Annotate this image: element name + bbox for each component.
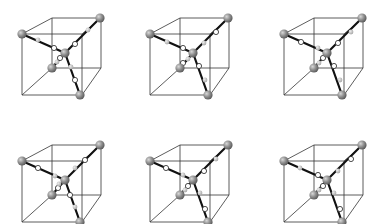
gray-site-atom [214, 157, 219, 162]
corner-atom [47, 63, 56, 72]
corner-atom [279, 156, 288, 165]
cube-edge [284, 195, 314, 222]
corner-atom [309, 63, 318, 72]
corner-atom [223, 13, 232, 22]
center-atom [188, 175, 197, 184]
corner-atom [145, 29, 154, 38]
bond [327, 180, 342, 222]
corner-atom [337, 217, 346, 224]
cube-r1-c3 [279, 13, 366, 99]
gray-site-atom [73, 166, 78, 171]
gray-site-atom [317, 188, 322, 193]
gray-site-atom [349, 30, 354, 35]
white-site-atom [82, 157, 87, 162]
bond [193, 53, 208, 95]
bond [22, 161, 65, 180]
cube-edge [82, 195, 101, 222]
corner-atom [309, 190, 318, 199]
corner-atom [279, 29, 288, 38]
center-atom [60, 175, 69, 184]
gray-site-atom [316, 46, 321, 51]
cube-r2-c1 [17, 140, 104, 224]
gray-site-atom [73, 205, 78, 210]
cube-edge [22, 145, 52, 161]
cube-edge [150, 68, 180, 95]
corner-atom [337, 90, 346, 99]
white-site-atom [315, 172, 320, 177]
white-site-atom [331, 63, 336, 68]
white-site-atom [337, 206, 342, 211]
white-site-atom [298, 39, 303, 44]
corner-atom [175, 190, 184, 199]
cube-edge [344, 195, 363, 222]
white-site-atom [67, 192, 72, 197]
corner-atom [95, 13, 104, 22]
corner-atom [175, 63, 184, 72]
white-site-atom [320, 183, 325, 188]
white-site-atom [163, 165, 168, 170]
center-atom [322, 48, 331, 57]
cube-edge [150, 18, 180, 34]
gray-site-atom [86, 28, 91, 33]
white-site-atom [196, 63, 201, 68]
bond [150, 161, 193, 180]
unit-cells-diagram [0, 0, 382, 224]
cube-edge [22, 195, 52, 222]
gray-site-atom [336, 169, 341, 174]
gray-site-atom [332, 191, 337, 196]
cube-edge [22, 18, 52, 34]
corner-atom [145, 156, 154, 165]
cube-edge [284, 18, 314, 34]
cube-edge [150, 195, 180, 222]
cube-edge [210, 195, 229, 222]
bond [65, 180, 80, 222]
bond [65, 145, 100, 180]
bond [193, 180, 208, 222]
corner-atom [357, 13, 366, 22]
cube-r2-c2 [145, 140, 232, 224]
bond [150, 34, 193, 53]
gray-site-atom [298, 166, 303, 171]
corner-atom [203, 90, 212, 99]
bond [327, 18, 362, 53]
gray-site-atom [202, 41, 207, 46]
bond [193, 18, 228, 53]
center-atom [188, 48, 197, 57]
white-site-atom [202, 206, 207, 211]
cube-r1-c1 [17, 13, 104, 99]
white-site-atom [72, 41, 77, 46]
corner-atom [75, 90, 84, 99]
gray-site-atom [69, 65, 74, 70]
figure-canvas [0, 0, 382, 224]
corner-atom [47, 190, 56, 199]
corner-atom [17, 29, 26, 38]
white-site-atom [213, 29, 218, 34]
white-site-atom [185, 183, 190, 188]
gray-site-atom [36, 38, 41, 43]
gray-site-atom [203, 78, 208, 83]
gray-site-atom [317, 61, 322, 66]
bond [65, 53, 80, 95]
gray-site-atom [53, 174, 58, 179]
bond [327, 53, 342, 95]
cube-edge [210, 68, 229, 95]
cube-r2-c3 [279, 140, 366, 224]
gray-site-atom [57, 182, 62, 187]
corner-atom [17, 156, 26, 165]
cube-edge [150, 145, 180, 161]
gray-site-atom [338, 78, 343, 83]
gray-site-atom [183, 188, 188, 193]
cube-edge [284, 145, 314, 161]
bond [327, 145, 362, 180]
bond [65, 18, 100, 53]
bond [284, 161, 327, 180]
corner-atom [203, 217, 212, 224]
gray-site-atom [186, 57, 191, 62]
white-site-atom [348, 156, 353, 161]
cube-edge [82, 68, 101, 95]
cube-edge [344, 68, 363, 95]
white-site-atom [35, 165, 40, 170]
white-site-atom [72, 77, 77, 82]
cube-edge [284, 68, 314, 95]
corner-atom [223, 140, 232, 149]
